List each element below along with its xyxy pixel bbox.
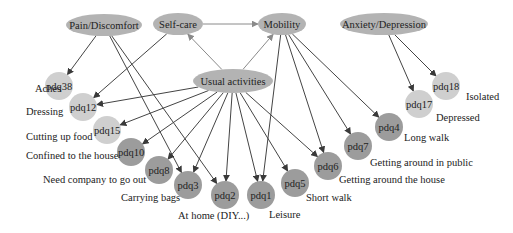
edge-selfcare-to-pdq12 [94, 34, 167, 98]
item-description-pdq17: Depressed [436, 112, 480, 123]
item-description-pdq6: Getting around the house [339, 174, 445, 185]
dimension-label: Self-care [159, 19, 197, 30]
item-node-pdq1[interactable]: pdq1 [247, 181, 275, 209]
item-description-pdq8: Need company to go out [43, 174, 146, 185]
dimension-node-selfcare[interactable]: Self-care [153, 13, 203, 35]
item-node-pdq2[interactable]: pdq2 [211, 181, 239, 209]
item-node-pdq17[interactable]: pdq17 [405, 90, 433, 118]
item-description-pdq3: Carrying bags [121, 192, 180, 203]
item-id-label: pdq18 [433, 81, 459, 92]
item-description-pdq38: Aches [35, 83, 61, 94]
item-node-pdq12[interactable]: pdq12 [69, 93, 97, 121]
item-id-label: pdq4 [379, 122, 401, 133]
graph-svg: Pain/DiscomfortSelf-careMobilityAnxiety/… [0, 0, 513, 233]
item-description-pdq1: Leisure [269, 209, 301, 220]
item-id-label: pdq8 [149, 165, 170, 176]
item-node-pdq8[interactable]: pdq8 [145, 156, 173, 184]
edge-usual-to-pdq10 [142, 92, 217, 144]
item-node-pdq4[interactable]: pdq4 [375, 113, 403, 141]
dimension-label: Usual activities [200, 76, 265, 87]
edge-anxiety-to-pdq17 [389, 35, 414, 91]
item-description-pdq5: Short walk [306, 192, 353, 203]
item-id-label: pdq17 [406, 99, 432, 110]
item-id-label: pdq12 [70, 102, 96, 113]
item-id-label: pdq3 [178, 180, 199, 191]
item-id-label: pdq10 [118, 147, 144, 158]
edge-anxiety-to-pdq18 [395, 35, 436, 76]
edge-mobility-to-pdq6 [286, 35, 324, 153]
item-node-pdq6[interactable]: pdq6 [314, 152, 342, 180]
dimension-node-mobility[interactable]: Mobility [258, 13, 306, 35]
dimension-label: Mobility [264, 19, 302, 30]
edge-usual-to-pdq2 [226, 93, 232, 181]
item-node-pdq5[interactable]: pdq5 [281, 169, 309, 197]
item-id-label: pdq5 [285, 178, 306, 189]
item-node-pdq18[interactable]: pdq18 [432, 72, 460, 100]
item-description-pdq7: Getting around in public [370, 157, 473, 168]
item-id-label: pdq1 [251, 190, 272, 201]
edge-usual-to-selfcare [188, 34, 222, 69]
edge-usual-to-pdq12 [97, 87, 199, 105]
dimension-node-pain[interactable]: Pain/Discomfort [66, 14, 142, 36]
edge-usual-to-mobility [243, 34, 273, 69]
item-id-label: pdq7 [348, 141, 369, 152]
dimension-label: Anxiety/Depression [342, 19, 427, 30]
dimension-label: Pain/Discomfort [69, 20, 138, 31]
edge-mobility-to-pdq1 [263, 35, 281, 181]
item-id-label: pdq15 [94, 125, 120, 136]
edge-pain-to-pdq38 [67, 36, 96, 75]
item-description-pdq4: Long walk [404, 132, 450, 143]
item-id-label: pdq2 [215, 190, 236, 201]
dimension-node-anxiety[interactable]: Anxiety/Depression [340, 13, 428, 35]
item-node-pdq15[interactable]: pdq15 [93, 116, 121, 144]
dimension-node-usual[interactable]: Usual activities [193, 69, 273, 93]
edge-usual-to-pdq1 [236, 93, 258, 181]
item-node-pdq10[interactable]: pdq10 [117, 138, 145, 166]
item-id-label: pdq6 [318, 161, 339, 172]
edge-mobility-to-pdq4 [292, 34, 379, 117]
item-node-pdq7[interactable]: pdq7 [344, 132, 372, 160]
item-description-pdq15: Cutting up food [26, 131, 93, 142]
edge-mobility-to-pdq7 [289, 35, 351, 135]
item-description-pdq12: Dressing [26, 106, 64, 117]
item-description-pdq2: At home (DIY...) [178, 210, 250, 222]
diagram-canvas: Pain/DiscomfortSelf-careMobilityAnxiety/… [0, 0, 513, 233]
item-description-pdq18: Isolated [466, 91, 500, 102]
edge-usual-to-pdq5 [240, 93, 288, 171]
item-description-pdq10: Confined to the house [26, 150, 119, 161]
